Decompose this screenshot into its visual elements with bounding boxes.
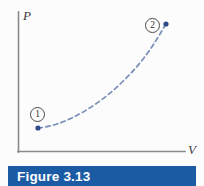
state-point-2-dot	[163, 21, 168, 26]
state-point-1-dot	[35, 125, 40, 130]
figure-caption-text: Figure 3.13	[8, 169, 90, 184]
state-marker-2: 2	[145, 18, 160, 33]
figure-container: P V 1 2 Figure 3.13	[0, 0, 204, 186]
y-axis-label: P	[23, 9, 31, 22]
process-curve	[38, 24, 166, 128]
plot-area: P V 1 2	[0, 0, 204, 166]
figure-caption-bar: Figure 3.13	[8, 166, 196, 186]
plot-svg	[0, 0, 204, 166]
state-marker-1: 1	[30, 107, 45, 122]
x-axis-label: V	[188, 143, 196, 156]
